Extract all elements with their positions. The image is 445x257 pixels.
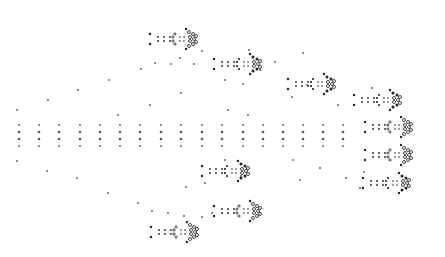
dot <box>227 212 229 214</box>
scatter-dot <box>77 89 79 91</box>
dot <box>364 131 366 133</box>
dot <box>238 215 240 217</box>
glyph-cluster <box>353 89 402 111</box>
grid-dot <box>119 131 122 134</box>
dot <box>407 131 410 134</box>
scatter-dot <box>179 57 181 59</box>
grid-dot <box>302 124 304 126</box>
dot <box>241 172 244 175</box>
dot <box>157 40 159 42</box>
dot <box>247 173 250 176</box>
dot <box>180 229 182 231</box>
dot <box>238 68 240 70</box>
dot <box>367 97 369 99</box>
dot <box>247 61 249 63</box>
scatter-dot <box>167 212 169 214</box>
dot <box>189 238 192 241</box>
dot <box>389 149 391 151</box>
scatter-dots <box>16 49 373 218</box>
grid-dot <box>302 138 305 141</box>
glyph-cluster <box>201 160 250 182</box>
dot <box>383 101 385 103</box>
scatter-dot <box>185 186 187 188</box>
dot <box>247 167 250 170</box>
grid-dot <box>282 124 284 126</box>
dot <box>158 233 160 235</box>
dot <box>243 61 245 63</box>
dot <box>394 156 396 158</box>
grid-dot <box>201 145 203 147</box>
dot <box>256 215 259 218</box>
glyph-cluster <box>213 53 262 75</box>
dot <box>400 136 402 138</box>
grid-dot <box>79 131 82 134</box>
dot <box>394 124 396 126</box>
grid-dot <box>139 124 141 126</box>
scatter-dot <box>299 179 301 181</box>
grid-dot <box>242 124 244 126</box>
glyph-cluster <box>364 116 413 138</box>
dot <box>398 128 400 130</box>
dot <box>243 212 245 214</box>
dot <box>399 96 402 99</box>
dot <box>384 128 386 130</box>
grid-dot <box>322 145 324 147</box>
dot <box>169 36 171 38</box>
dot <box>233 212 235 214</box>
grid-dot <box>221 145 223 147</box>
grid-dot <box>79 138 82 141</box>
dot <box>312 78 314 80</box>
scatter-dot <box>76 177 78 179</box>
grid-dot <box>18 145 20 147</box>
scatter-dot <box>292 159 294 161</box>
dot <box>353 104 355 106</box>
dot <box>192 43 195 46</box>
dot <box>301 81 303 83</box>
dot <box>410 123 413 126</box>
dot <box>184 233 186 235</box>
dot <box>253 208 256 211</box>
glyph-cluster <box>213 200 262 222</box>
grid-dot <box>18 124 20 126</box>
dot <box>213 215 215 217</box>
scatter-dot <box>359 187 361 189</box>
dot <box>175 226 177 228</box>
dot <box>389 109 391 111</box>
dot <box>221 61 223 63</box>
dot <box>224 172 226 174</box>
dot <box>233 61 235 63</box>
dot <box>403 133 406 136</box>
dot <box>353 94 355 96</box>
dot <box>259 66 262 69</box>
dot <box>404 128 407 131</box>
grid-dot <box>99 131 102 134</box>
dot <box>175 236 177 238</box>
dot <box>226 175 228 177</box>
scatter-dot <box>201 216 203 218</box>
grid-dot <box>139 138 142 141</box>
scatter-dot <box>247 114 249 116</box>
grid-dot <box>322 131 325 134</box>
dot <box>193 236 196 239</box>
grid-dot <box>119 124 121 126</box>
dot <box>372 152 374 154</box>
dot <box>376 101 378 103</box>
dot <box>179 36 181 38</box>
scatter-dot <box>242 83 244 85</box>
dot <box>392 106 395 109</box>
dot <box>407 159 410 162</box>
dot <box>387 128 389 130</box>
dot <box>389 159 391 161</box>
dot <box>185 48 187 50</box>
dot <box>184 229 186 231</box>
dot <box>256 205 259 208</box>
dot <box>364 149 366 151</box>
grid-dot <box>201 138 204 141</box>
dot <box>189 40 192 43</box>
grid-dot <box>262 145 264 147</box>
dot <box>201 165 203 167</box>
dot <box>221 65 223 67</box>
scatter-dot <box>248 49 250 51</box>
dot <box>393 97 396 100</box>
dot <box>378 152 380 154</box>
